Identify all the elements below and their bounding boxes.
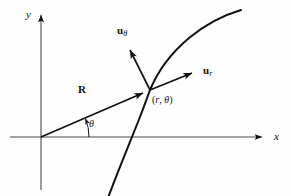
tangential-unit-vector-subscript: θ — [123, 29, 127, 38]
radial-unit-vector-label: ur — [203, 65, 212, 78]
radial-unit-vector-subscript: r — [209, 69, 212, 78]
point-close-paren: ) — [169, 94, 172, 105]
position-vector-arrow — [41, 93, 143, 137]
tangential-unit-vector-label: uθ — [117, 25, 127, 38]
tangential-unit-vector-arrow — [130, 50, 150, 90]
polar-coordinate-diagram: y x R ur uθ (r, θ) θ — [0, 0, 291, 196]
trajectory-curve — [108, 10, 241, 196]
position-vector-label: R — [78, 84, 86, 95]
y-axis-label: y — [26, 9, 31, 20]
point-coordinate-label: (r, θ) — [152, 95, 173, 105]
x-axis-label: x — [274, 131, 279, 142]
diagram-canvas — [0, 0, 291, 196]
angle-theta-label: θ — [89, 119, 94, 129]
